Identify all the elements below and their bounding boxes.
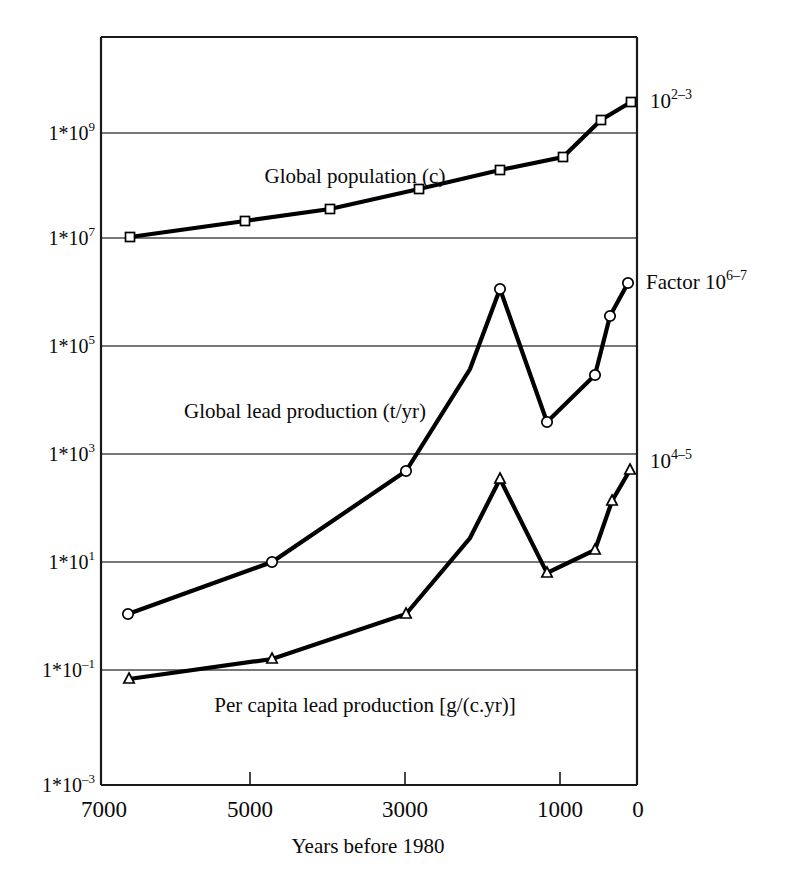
marker-lead-5	[590, 370, 600, 380]
marker-population-5	[559, 153, 568, 162]
marker-lead-3	[495, 284, 505, 294]
marker-population-2	[326, 205, 335, 214]
series-label-global-lead-production: Global lead production (t/yr)	[184, 399, 426, 423]
lead-production-line-chart: 1*109 1*107 1*105 1*103 1*101 1*10–1 1*1…	[0, 0, 790, 877]
x-axis-title: Years before 1980	[292, 834, 445, 858]
marker-lead-4	[542, 417, 552, 427]
chart-background	[0, 0, 790, 877]
xtick-label-1000: 1000	[537, 797, 583, 822]
series-label-global-population: Global population (c)	[265, 164, 446, 188]
xtick-label-3000: 3000	[382, 797, 428, 822]
series-label-per-capita-lead-production: Per capita lead production [g/(c.yr)]	[214, 693, 515, 717]
marker-lead-2	[401, 466, 411, 476]
marker-lead-7	[623, 278, 633, 288]
xtick-label-0: 0	[632, 797, 644, 822]
marker-population-7	[627, 98, 636, 107]
marker-lead-0	[123, 609, 133, 619]
marker-lead-6	[605, 311, 615, 321]
marker-population-6	[597, 116, 606, 125]
ytick-label-1e7: 1*107	[49, 224, 96, 249]
marker-population-0	[126, 233, 135, 242]
ytick-label-1e3: 1*103	[49, 440, 96, 465]
ytick-label-1e5: 1*105	[49, 332, 96, 357]
chart-container: 1*109 1*107 1*105 1*103 1*101 1*10–1 1*1…	[0, 0, 790, 877]
xtick-label-7000: 7000	[81, 797, 127, 822]
marker-population-4	[496, 166, 505, 175]
ytick-label-1e9: 1*109	[49, 119, 96, 144]
ytick-label-1e1: 1*101	[49, 548, 96, 573]
xtick-label-5000: 5000	[227, 797, 273, 822]
marker-lead-1	[267, 557, 277, 567]
marker-population-1	[241, 217, 250, 226]
